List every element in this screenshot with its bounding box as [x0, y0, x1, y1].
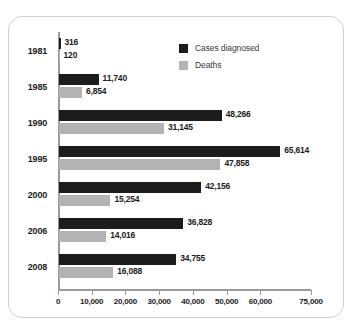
bar-value-cases: 65,614 — [284, 145, 309, 155]
bar-cases — [59, 110, 222, 121]
legend-label-deaths: Deaths — [195, 60, 221, 70]
bar-row: 200834,75516,088 — [9, 251, 343, 285]
year-label: 2000 — [7, 190, 47, 200]
x-tick-mark — [311, 290, 312, 295]
bar-cases — [59, 254, 176, 265]
x-tick-mark — [58, 290, 59, 295]
legend-swatch-deaths-icon — [179, 61, 188, 70]
bar-value-deaths: 14,016 — [110, 230, 135, 240]
bar-cases — [59, 74, 99, 85]
x-tick-label: 10,000 — [80, 297, 103, 306]
bar-row: 200042,15615,254 — [9, 179, 343, 213]
year-label: 1990 — [7, 118, 47, 128]
chart-card: 010,00020,00030,00040,00050,00060,00075,… — [8, 16, 344, 318]
legend-label-cases: Cases diagnosed — [195, 43, 259, 53]
x-tick-label: 40,000 — [181, 297, 204, 306]
year-label: 1985 — [7, 82, 47, 92]
bar-value-cases: 42,156 — [205, 181, 230, 191]
bar-row: 199565,61447,858 — [9, 143, 343, 177]
bar-cases — [59, 38, 61, 49]
bar-value-cases: 11,740 — [103, 73, 127, 83]
x-tick-label: 0 — [56, 297, 60, 306]
year-label: 1981 — [7, 46, 47, 56]
bar-row: 1981316120 — [9, 35, 343, 69]
bar-row: 200636,82814,016 — [9, 215, 343, 249]
year-label: 2006 — [7, 226, 47, 236]
x-tick-mark — [125, 290, 126, 295]
bar-deaths — [59, 51, 60, 62]
x-tick-mark — [193, 290, 194, 295]
bar-deaths — [59, 123, 164, 134]
bar-value-deaths: 15,254 — [114, 194, 139, 204]
x-tick-label: 30,000 — [148, 297, 171, 306]
x-tick-label: 60,000 — [249, 297, 272, 306]
x-tick-mark — [159, 290, 160, 295]
legend-swatch-cases-icon — [179, 44, 188, 53]
bar-row: 199048,26631,145 — [9, 107, 343, 141]
bar-value-cases: 316 — [65, 37, 79, 47]
bar-value-deaths: 120 — [64, 50, 78, 60]
bar-deaths — [59, 195, 110, 206]
x-tick-mark — [260, 290, 261, 295]
bar-deaths — [59, 159, 220, 170]
bar-value-cases: 36,828 — [187, 217, 212, 227]
legend-item-cases-diagnosed: Cases diagnosed — [179, 43, 259, 53]
x-tick-label: 75,000 — [299, 297, 322, 306]
bar-value-cases: 34,755 — [180, 253, 205, 263]
bar-value-deaths: 47,858 — [224, 158, 249, 168]
bar-deaths — [59, 231, 106, 242]
bar-value-deaths: 16,088 — [117, 266, 142, 276]
bar-cases — [59, 146, 280, 157]
bar-value-cases: 48,266 — [226, 109, 251, 119]
year-label: 2008 — [7, 262, 47, 272]
bar-cases — [59, 182, 201, 193]
bar-row: 198511,7406,854 — [9, 71, 343, 105]
year-label: 1995 — [7, 154, 47, 164]
x-tick-label: 20,000 — [114, 297, 137, 306]
x-tick-mark — [92, 290, 93, 295]
bar-deaths — [59, 267, 113, 278]
x-tick-label: 50,000 — [215, 297, 238, 306]
bar-value-deaths: 6,854 — [86, 86, 106, 96]
bar-deaths — [59, 87, 82, 98]
legend-item-deaths: Deaths — [179, 60, 259, 70]
chart-legend: Cases diagnosed Deaths — [179, 43, 259, 77]
bar-cases — [59, 218, 183, 229]
x-tick-mark — [227, 290, 228, 295]
bar-value-deaths: 31,145 — [168, 122, 193, 132]
